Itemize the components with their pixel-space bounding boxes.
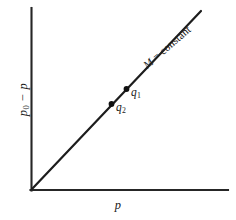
q1-label-base: q	[131, 86, 137, 98]
q1-label: q1	[131, 87, 141, 99]
q2-point-marker	[109, 101, 115, 107]
q2-label: q2	[116, 102, 126, 114]
y-axis-label: p0 − p	[17, 90, 30, 116]
y-axis-label-tail: − p	[16, 83, 30, 105]
x-axis-label: p	[0, 199, 236, 212]
q1-label-subscript: 1	[137, 91, 141, 100]
q1-point-marker	[124, 86, 130, 92]
q2-label-base: q	[116, 101, 122, 113]
y-axis-label-base: p	[16, 110, 30, 117]
y-axis-label-subscript: 0	[21, 105, 31, 110]
q2-label-subscript: 2	[122, 106, 126, 115]
chart-figure: M = constant q1 q2 p0 − p p	[0, 0, 236, 220]
